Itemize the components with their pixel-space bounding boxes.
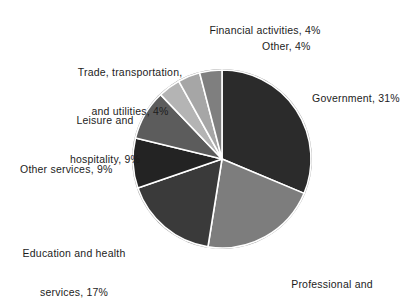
slice-label-leisure-hospitality: Leisure and hospitality, 9% (46, 88, 164, 192)
slice-label-professional-business-services: Professional and business services, 21% (262, 252, 402, 306)
slice-label-other: Other, 4% (262, 40, 382, 53)
slice-label-education-line2: services, 17% (2, 286, 146, 299)
slice-label-education-line1: Education and health (2, 247, 146, 260)
slice-label-financial-activities: Financial activities, 4% (180, 24, 350, 37)
slice-label-leisure-line1: Leisure and (46, 114, 164, 127)
pie-chart-figure: Financial activities, 4% Other, 4% Trade… (0, 0, 420, 306)
slice-label-trade-line1: Trade, transportation, (56, 66, 204, 79)
slice-label-education-health-services: Education and health services, 17% (2, 221, 146, 306)
slice-label-government: Government, 31% (312, 92, 420, 105)
slice-label-professional-line1: Professional and (262, 278, 402, 291)
slice-label-other-services: Other services, 9% (20, 163, 148, 176)
